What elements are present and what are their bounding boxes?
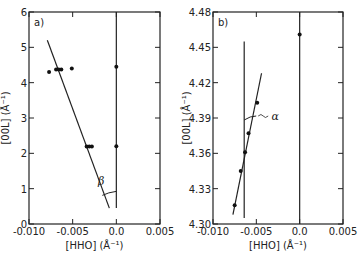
x-axis-title: [HHO] (Å⁻¹) [66, 239, 124, 251]
data-point [247, 131, 251, 135]
fit-line [233, 73, 262, 214]
y-axis-title: [00L] (Å⁻¹) [0, 91, 11, 144]
y-tick-label: 0 [21, 219, 27, 230]
data-point [298, 32, 302, 36]
data-point [243, 150, 247, 154]
panel-label: a) [34, 17, 44, 28]
angle-label: β [97, 175, 104, 188]
x-tick-label: -0.010 [13, 226, 45, 237]
y-tick-label: 3 [21, 113, 27, 124]
data-point [70, 67, 74, 71]
data-point [255, 101, 259, 105]
x-axis-title: [HHO] (Å⁻¹) [249, 239, 307, 251]
data-point [59, 68, 63, 72]
y-tick-label: 2 [21, 148, 27, 159]
data-point [114, 65, 118, 69]
panel-a: -0.010-0.0050.00.0050123456[HHO] (Å⁻¹)[0… [0, 7, 174, 251]
data-point [114, 144, 118, 148]
y-tick-label: 4.48 [189, 7, 211, 18]
y-tick-label: 4 [21, 78, 27, 89]
figure: -0.010-0.0050.00.0050123456[HHO] (Å⁻¹)[0… [0, 0, 358, 257]
panel-b: -0.010-0.0050.00.0054.304.334.364.394.42… [180, 7, 357, 251]
data-point [90, 145, 94, 149]
y-tick-label: 4.30 [189, 219, 211, 230]
y-tick-label: 1 [21, 184, 27, 195]
y-tick-label: 4.36 [189, 148, 211, 159]
panel-label: b) [218, 17, 228, 28]
y-tick-label: 4.42 [189, 78, 211, 89]
y-tick-label: 5 [21, 42, 27, 53]
angle-label: α [272, 110, 280, 123]
data-point [47, 70, 51, 74]
x-tick-label: -0.005 [57, 226, 89, 237]
x-tick-label: 0.0 [108, 226, 124, 237]
x-tick-label: 0.005 [146, 226, 175, 237]
data-point [233, 203, 237, 207]
y-tick-label: 4.33 [189, 184, 211, 195]
x-tick-label: -0.005 [240, 226, 272, 237]
x-tick-label: 0.0 [292, 226, 308, 237]
y-axis-title: [00L] (Å⁻¹) [180, 91, 192, 144]
y-tick-label: 6 [21, 7, 27, 18]
x-tick-label: 0.005 [329, 226, 358, 237]
data-point [239, 169, 243, 173]
leader-squiggle [258, 115, 268, 118]
y-tick-label: 4.39 [189, 113, 211, 124]
angle-arc [244, 116, 256, 120]
y-tick-label: 4.45 [189, 42, 211, 53]
